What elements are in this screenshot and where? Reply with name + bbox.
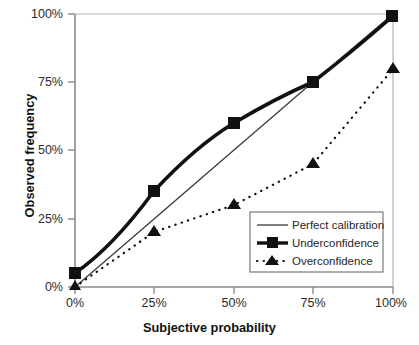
legend-label-perfect-calibration: Perfect calibration: [292, 219, 384, 231]
marker-triangle-100: [386, 62, 400, 73]
legend-label-underconfidence: Underconfidence: [292, 237, 379, 249]
y-tick-marks: [68, 14, 75, 287]
marker-square-50: [228, 117, 240, 129]
x-tick-label-0: 0%: [45, 296, 105, 310]
marker-triangle-0: [69, 280, 81, 290]
x-tick-label-75: 75%: [283, 296, 343, 310]
calibration-chart: 100% 75% 50% 25% 0% 0% 25% 50% 75% 100% …: [0, 0, 419, 345]
x-tick-label-50: 50%: [204, 296, 264, 310]
legend-label-overconfidence: Overconfidence: [292, 255, 373, 267]
x-tick-label-100: 100%: [361, 296, 419, 310]
marker-triangle-25: [147, 225, 161, 236]
x-tick-marks: [75, 287, 393, 294]
marker-square-0: [69, 267, 81, 279]
marker-square-25: [148, 185, 160, 197]
x-tick-label-25: 25%: [124, 296, 184, 310]
marker-square-75: [307, 76, 319, 88]
y-tick-label-100: 100%: [18, 7, 63, 21]
x-axis-title: Subjective probability: [0, 320, 419, 335]
y-axis-title: Observed frequency: [22, 61, 37, 251]
marker-square-100: [386, 10, 398, 22]
y-tick-label-0: 0%: [18, 280, 63, 294]
